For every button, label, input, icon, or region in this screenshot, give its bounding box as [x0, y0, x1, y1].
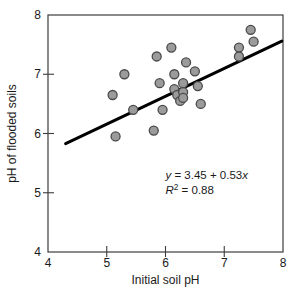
data-point: [193, 82, 202, 91]
data-point: [111, 132, 120, 141]
data-point: [179, 79, 188, 88]
data-point: [234, 43, 243, 52]
y-axis-title: pH of flooded soils: [5, 84, 19, 183]
scatter-chart: 4567845678Initial soil pHpH of flooded s…: [0, 0, 297, 302]
x-axis-tick-label: 6: [162, 256, 169, 270]
data-point: [152, 52, 161, 61]
scatter-plot-figure: 4567845678Initial soil pHpH of flooded s…: [0, 0, 297, 302]
plot-frame: [48, 15, 283, 252]
data-point: [246, 25, 255, 34]
data-point: [155, 79, 164, 88]
data-point: [129, 105, 138, 114]
x-axis-tick-label: 8: [280, 256, 287, 270]
data-point: [249, 37, 258, 46]
x-axis-tick-label: 5: [103, 256, 110, 270]
x-axis-title: Initial soil pH: [131, 273, 199, 287]
r-squared-value: R2 = 0.88: [166, 183, 214, 197]
y-axis-tick-label: 4: [34, 245, 41, 259]
data-point: [149, 126, 158, 135]
data-point: [179, 93, 188, 102]
y-axis-tick-label: 5: [34, 186, 41, 200]
y-axis-tick-label: 6: [34, 127, 41, 141]
data-point: [182, 58, 191, 67]
y-axis-tick-label: 7: [34, 67, 41, 81]
x-axis-tick-label: 4: [45, 256, 52, 270]
x-axis-tick-label: 7: [221, 256, 228, 270]
data-point: [108, 90, 117, 99]
data-point: [234, 52, 243, 61]
regression-equation: y = 3.45 + 0.53x: [165, 169, 250, 181]
data-point: [158, 105, 167, 114]
data-point: [167, 43, 176, 52]
data-point: [196, 99, 205, 108]
data-point: [190, 67, 199, 76]
y-axis-tick-label: 8: [34, 8, 41, 22]
data-point: [120, 70, 129, 79]
data-point: [170, 70, 179, 79]
